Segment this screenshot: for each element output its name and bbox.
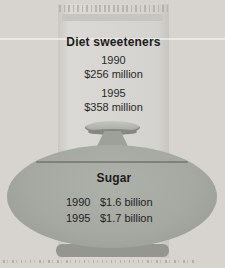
row-year: 1990 [66, 194, 92, 210]
row-value: $1.6 billion [100, 194, 153, 210]
stat-value: $256 million [58, 67, 169, 81]
sweeteners-vs-sugar-infographic: Diet sweeteners 1990 $256 million 1995 $… [0, 0, 225, 268]
diet-sweeteners-1995-stat: 1995 $358 million [58, 86, 169, 114]
stat-year: 1990 [58, 53, 169, 67]
cropped-caption-remnant [3, 260, 195, 263]
stat-year: 1995 [58, 86, 169, 100]
stat-value: $358 million [58, 100, 169, 114]
diet-sweeteners-title: Diet sweeteners [58, 35, 169, 49]
sugar-1990-row: 1990 $1.6 billion [66, 194, 153, 210]
sugar-title: Sugar [9, 171, 219, 185]
packet-crimped-edge [59, 5, 168, 12]
sugar-bowl-lid-seam [36, 161, 188, 163]
row-year: 1995 [66, 210, 92, 226]
sugar-stats: 1990 $1.6 billion 1995 $1.7 billion [66, 194, 153, 226]
row-value: $1.7 billion [100, 210, 153, 226]
diet-sweeteners-1990-stat: 1990 $256 million [58, 53, 169, 81]
packet-fold-band [62, 14, 163, 21]
sugar-1995-row: 1995 $1.7 billion [66, 210, 153, 226]
